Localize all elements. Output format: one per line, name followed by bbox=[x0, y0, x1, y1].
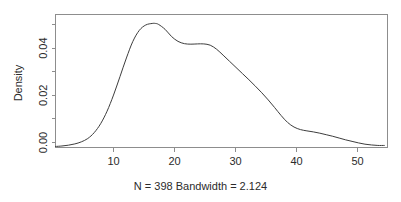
x-axis-ticks bbox=[114, 148, 358, 152]
plot-subtitle: N = 398 Bandwidth = 2.124 bbox=[134, 180, 267, 192]
y-tick-label-0: 0.00 bbox=[37, 132, 49, 153]
x-tick-label-30: 30 bbox=[229, 155, 241, 167]
plot-frame-box bbox=[56, 15, 388, 148]
density-curve bbox=[56, 23, 385, 146]
y-tick-label-4: 0.04 bbox=[37, 37, 49, 58]
density-plot-screenshot: 0.00 0.02 0.04 Density 10 20 30 40 50 N … bbox=[0, 0, 401, 202]
x-tick-label-50: 50 bbox=[351, 155, 363, 167]
y-axis-title: Density bbox=[12, 64, 24, 101]
y-axis-tick-labels: 0.00 0.02 0.04 bbox=[37, 37, 49, 153]
x-axis-tick-labels: 10 20 30 40 50 bbox=[107, 155, 363, 167]
density-plot-canvas: 0.00 0.02 0.04 Density 10 20 30 40 50 N … bbox=[0, 0, 401, 202]
y-tick-label-2: 0.02 bbox=[37, 85, 49, 106]
x-tick-label-20: 20 bbox=[168, 155, 180, 167]
x-tick-label-40: 40 bbox=[290, 155, 302, 167]
y-axis-ticks bbox=[52, 25, 56, 143]
x-tick-label-10: 10 bbox=[107, 155, 119, 167]
